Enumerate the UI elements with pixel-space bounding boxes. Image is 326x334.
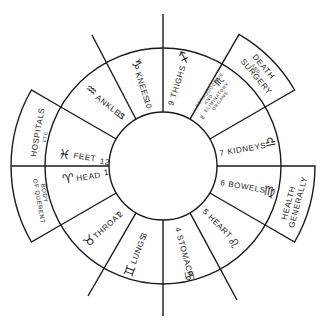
- house-1: ♈ HEAD 1: [61, 166, 110, 187]
- svg-text:HEART: HEART: [206, 213, 234, 241]
- svg-text:BOWELS: BOWELS: [228, 179, 267, 194]
- svg-text:♈: ♈: [61, 170, 75, 187]
- house-3: ♊ LUNGS 3: [121, 230, 151, 279]
- tab-hospitals-label: HOSPITALS ETC: [29, 107, 52, 159]
- svg-text:4: 4: [173, 226, 183, 233]
- svg-text:8: 8: [199, 114, 206, 121]
- svg-text:♋: ♋: [181, 268, 199, 283]
- svg-text:KIDNEYS: KIDNEYS: [227, 141, 267, 157]
- house-2: ♉ THROAT 2: [80, 206, 126, 250]
- svg-text:9: 9: [166, 99, 176, 107]
- svg-text:♑: ♑: [128, 56, 146, 72]
- house-9: 9 THIGHS ♐: [162, 49, 193, 107]
- tab-death-surgery-label: DEATH AND SURGERY: [239, 49, 283, 96]
- inner-circle: [109, 112, 217, 220]
- house-11: ♒ ANKLES 11: [82, 81, 130, 123]
- svg-text:♎: ♎: [263, 133, 277, 150]
- svg-text:6: 6: [220, 178, 227, 188]
- house-12: ♓ FEET 12: [58, 146, 112, 168]
- svg-text:12: 12: [99, 157, 110, 167]
- house-6: 6 BOWELS ♍: [219, 175, 277, 199]
- house-10: ♑ KNEES 10: [128, 56, 158, 110]
- svg-text:♓: ♓: [58, 146, 72, 162]
- svg-text:10: 10: [142, 98, 154, 110]
- house-5: 5 HEART ♌: [197, 206, 243, 252]
- svg-text:♍: ♍: [262, 183, 276, 200]
- svg-text:FEET: FEET: [73, 151, 97, 163]
- house-4: 4 STOMACH ♋: [169, 226, 198, 284]
- house-wheel-diagram: ♈ HEAD 1 ♓ FEET 12 ♒ ANKLES 11 ♑ KNEES 1…: [0, 0, 326, 334]
- house-7: 7 KIDNEYS ♎: [218, 133, 277, 158]
- svg-text:THIGHS: THIGHS: [169, 64, 188, 99]
- house-8: 8 REPRODUCTIVE AND ELIMINATORY ORGANS ♏: [190, 71, 237, 123]
- svg-text:HEAD: HEAD: [76, 171, 102, 183]
- svg-text:7: 7: [219, 148, 226, 158]
- tab-body-of-querent-label: BODY OF QUERENT: [32, 177, 53, 224]
